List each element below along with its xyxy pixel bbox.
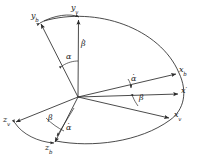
big-ellipse-arcs — [44, 16, 184, 143]
dot-accent-alpha-center: · — [133, 72, 135, 79]
angle-label-beta-lower-left: β — [48, 114, 53, 122]
axis-vector-yb — [41, 24, 78, 97]
angle-label-alpha-upper-left: α — [66, 53, 71, 61]
axis-label-yb-sub: b — [35, 17, 39, 23]
angle-label-alpha-upper-left-symbol: α — [66, 52, 71, 61]
axis-vector-zb — [55, 97, 78, 142]
axis-label-xprime-mark: ′ — [186, 86, 188, 94]
axis-vectors — [16, 20, 178, 142]
angle-label-beta-center-symbol: β — [139, 93, 144, 102]
axis-label-xprime-base: x — [181, 86, 186, 95]
axis-vector-yv — [78, 20, 79, 97]
angle-label-beta-lower-symbol: β — [48, 113, 53, 122]
dot-accent-beta-upper: · — [82, 37, 84, 44]
angle-label-alpha-center-right: · α — [131, 75, 136, 83]
axis-label-xv: xv — [174, 111, 182, 121]
angle-label-alpha-lower-left: · α — [66, 124, 71, 132]
angle-arcs — [46, 61, 138, 136]
figure-canvas: yb yv xb x′ xv zv zb α · β · α β β · α — [0, 0, 198, 160]
axis-vector-xb — [78, 74, 176, 97]
axis-label-yv-sub: v — [75, 9, 78, 15]
angle-label-beta-upper-vertical: · β — [81, 40, 86, 48]
axis-label-zb-sub: b — [49, 149, 53, 155]
angle-arc-alpha-upper — [62, 61, 78, 66]
axis-label-xb-sub: b — [183, 71, 187, 77]
axis-label-zv: zv — [3, 116, 10, 126]
zv-zb-arc — [15, 123, 54, 143]
axis-vector-xprime — [78, 94, 178, 97]
angle-arc-beta-center — [133, 97, 138, 106]
axis-label-xb: xb — [179, 66, 187, 76]
axis-label-yb: yb — [31, 12, 39, 22]
axis-label-zv-sub: v — [7, 121, 10, 127]
axis-vector-xv — [78, 97, 169, 118]
axis-label-xv-sub: v — [178, 116, 181, 122]
axis-label-zb: zb — [45, 144, 53, 154]
axis-label-xprime: x′ — [181, 87, 187, 95]
rotation-diagram-svg — [0, 0, 198, 160]
axis-vector-zv — [16, 97, 78, 122]
lower-plane-arc — [56, 120, 170, 144]
dot-accent-alpha-lower: · — [68, 121, 70, 128]
angle-label-beta-center-right: β — [139, 94, 144, 102]
axis-label-yv: yv — [71, 4, 79, 14]
